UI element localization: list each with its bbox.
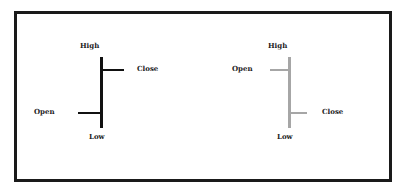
right-high-low-line [288, 57, 291, 128]
left-low-label: Low [89, 132, 105, 141]
left-close-label: Close [137, 64, 158, 73]
left-high-low-line [100, 57, 103, 128]
right-close-tick [290, 112, 307, 114]
right-low-label: Low [277, 132, 293, 141]
left-open-label: Open [34, 107, 55, 116]
left-open-tick [78, 112, 101, 114]
right-close-label: Close [322, 107, 343, 116]
diagram-frame [14, 11, 392, 182]
left-close-tick [102, 69, 124, 71]
right-open-tick [270, 69, 289, 71]
right-open-label: Open [232, 64, 253, 73]
right-high-label: High [268, 41, 287, 50]
left-high-label: High [80, 41, 99, 50]
